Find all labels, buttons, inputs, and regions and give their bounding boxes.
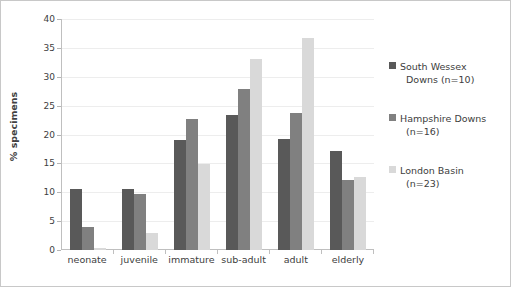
bar-group (322, 19, 374, 250)
legend-label-line2: (n=16) (400, 125, 486, 138)
bar (342, 180, 354, 250)
legend-label: Hampshire Downs(n=16) (400, 112, 486, 138)
y-axis-tick-label: 25 (44, 101, 55, 111)
y-axis-tick-label: 40 (44, 14, 55, 24)
legend-item: Hampshire Downs(n=16) (389, 112, 507, 138)
bar (330, 151, 342, 250)
legend-item: South WessexDowns (n=10) (389, 60, 507, 86)
legend-swatch-icon (389, 62, 396, 69)
bar-chart: % specimens 4035302520151050 neonatejuve… (0, 0, 511, 287)
legend-label: London Basin(n=23) (400, 164, 464, 190)
plot-area-wrapper: 4035302520151050 (25, 15, 375, 255)
bar (354, 177, 366, 250)
legend-label-line2: Downs (n=10) (400, 73, 474, 86)
legend-item: London Basin(n=23) (389, 164, 507, 190)
legend-label: South WessexDowns (n=10) (400, 60, 474, 86)
bar (174, 140, 186, 250)
bar (198, 164, 210, 250)
x-axis-tick-label: elderly (322, 254, 374, 265)
y-axis-tick-label: 0 (49, 245, 55, 255)
y-axis-tick-label: 35 (44, 43, 55, 53)
x-axis-labels: neonatejuvenileimmaturesub-adultadulteld… (61, 254, 374, 265)
legend-label-line1: South Wessex (400, 61, 467, 72)
legend-swatch-icon (389, 166, 396, 173)
y-axis-ticks: 4035302520151050 (25, 15, 61, 250)
legend-label-line1: Hampshire Downs (400, 113, 486, 124)
bar (186, 119, 198, 250)
bar (146, 233, 158, 250)
bar-group (270, 19, 322, 250)
bar (134, 194, 146, 250)
bar (94, 248, 106, 250)
x-axis-tick-label: immature (165, 254, 217, 265)
bar (238, 89, 250, 250)
bar (122, 189, 134, 250)
y-axis-tick-label: 10 (44, 187, 55, 197)
bar (70, 189, 82, 250)
bar (250, 59, 262, 250)
y-axis-tick-label: 15 (44, 158, 55, 168)
y-axis-tick-label: 30 (44, 72, 55, 82)
bar (226, 115, 238, 250)
x-axis-tick-label: juvenile (113, 254, 165, 265)
x-axis-tick-label: neonate (61, 254, 113, 265)
x-axis-tick-label: adult (270, 254, 322, 265)
y-axis-tick-label: 5 (49, 216, 55, 226)
bar (82, 227, 94, 250)
plot-area (61, 19, 374, 250)
y-axis-tick-label: 20 (44, 130, 55, 140)
x-axis-tick-label: sub-adult (218, 254, 270, 265)
legend-swatch-icon (389, 114, 396, 121)
bar-group (218, 19, 270, 250)
bar-group (166, 19, 218, 250)
y-axis-title: % specimens (3, 1, 25, 251)
bar (278, 139, 290, 250)
bar-group (114, 19, 166, 250)
legend: South WessexDowns (n=10)Hampshire Downs(… (389, 60, 507, 216)
y-axis-tick-mark (57, 250, 61, 251)
bar (290, 113, 302, 250)
bar-group (62, 19, 114, 250)
bar (302, 38, 314, 250)
legend-label-line2: (n=23) (400, 177, 464, 190)
y-axis-title-text: % specimens (9, 91, 20, 160)
bars-layer (62, 19, 374, 250)
legend-label-line1: London Basin (400, 165, 464, 176)
